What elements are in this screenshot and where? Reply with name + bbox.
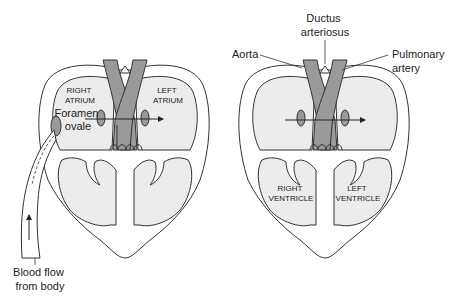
right-heart: Ductus arteriosus Aorta Pulmonary artery… <box>232 12 448 258</box>
valve-left <box>297 110 305 126</box>
left-atrium-label: LEFT ATRIUM <box>153 86 183 105</box>
right-atrium-label: RIGHT ATRIUM <box>65 86 95 105</box>
aorta-label: Aorta <box>232 48 259 60</box>
fetal-heart-diagram: RIGHT ATRIUM LEFT ATRIUM Foramen ovale B… <box>0 0 459 304</box>
vena-cava <box>21 130 56 258</box>
ductus-arteriosus-label: Ductus arteriosus <box>301 12 350 38</box>
right-atrium <box>253 76 315 150</box>
valve-right <box>141 110 149 126</box>
pulmonary-artery-label: Pulmonary artery <box>392 48 448 74</box>
blood-flow-label: Blood flow from body <box>13 266 67 292</box>
left-ventricle <box>134 158 192 226</box>
valve-right <box>341 110 349 126</box>
right-ventricle <box>58 158 116 226</box>
left-heart: RIGHT ATRIUM LEFT ATRIUM Foramen ovale B… <box>13 60 209 292</box>
